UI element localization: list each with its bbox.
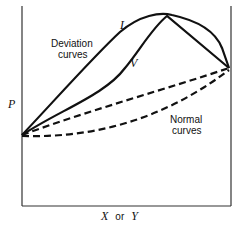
deviation-label-line2: curves: [58, 49, 87, 60]
normal-label-line1: Normal: [170, 114, 202, 125]
x-axis-label: X or Y: [100, 206, 139, 223]
curve-label-v: V: [130, 56, 139, 70]
y-axis-label: P: [7, 97, 16, 111]
normal-label-line2: curves: [172, 125, 201, 136]
curve-label-l: L: [119, 18, 127, 32]
vle-diagram: L V Deviation curves Normal curves P X o…: [0, 0, 246, 229]
x-axis-var1: X: [100, 209, 109, 223]
deviation-label-line1: Deviation: [51, 38, 93, 49]
x-axis-var2: Y: [131, 209, 139, 223]
x-axis-or: or: [115, 211, 125, 222]
